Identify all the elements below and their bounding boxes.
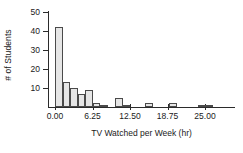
histogram-bar [123, 105, 131, 107]
histogram-bar [198, 105, 206, 107]
histogram-bar [145, 103, 153, 107]
histogram-bar [78, 94, 86, 107]
histogram-bar [55, 27, 63, 107]
histogram-bar [70, 88, 78, 107]
histogram-bar [63, 82, 71, 107]
histogram-bar [205, 105, 213, 107]
histogram-bar [115, 98, 123, 108]
histogram-bar [85, 90, 93, 107]
histogram-bar [93, 103, 101, 107]
histogram-bar [100, 105, 108, 107]
x-axis-title: TV Watched per Week (hr) [48, 128, 235, 138]
histogram-bar [169, 103, 177, 107]
histogram-figure: # of Students 1020304050 0.006.2512.5018… [0, 0, 243, 153]
